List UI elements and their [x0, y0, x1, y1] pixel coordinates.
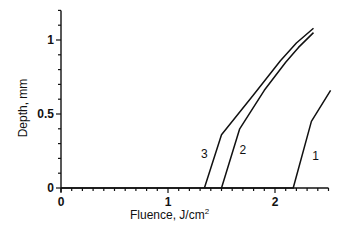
depth-vs-fluence-chart: 01200.51 321 Fluence, J/cm2 Depth, mm [0, 0, 346, 241]
curves [61, 28, 331, 188]
y-tick-label: 0.5 [37, 107, 54, 121]
curve-1 [61, 90, 331, 188]
y-tick-label: 0 [47, 181, 54, 195]
x-tick-label: 1 [165, 195, 172, 209]
curve-label-1: 1 [312, 149, 319, 163]
curve-label-2: 2 [240, 143, 247, 157]
x-tick-label: 0 [58, 195, 65, 209]
curve-3 [204, 28, 313, 188]
curve-label-3: 3 [201, 147, 208, 161]
y-tick-label: 1 [47, 33, 54, 47]
y-axis-title: Depth, mm [16, 79, 30, 138]
x-tick-label: 2 [272, 195, 279, 209]
axes: 01200.51 [37, 10, 328, 209]
x-axis-title: Fluence, J/cm2 [130, 207, 210, 222]
